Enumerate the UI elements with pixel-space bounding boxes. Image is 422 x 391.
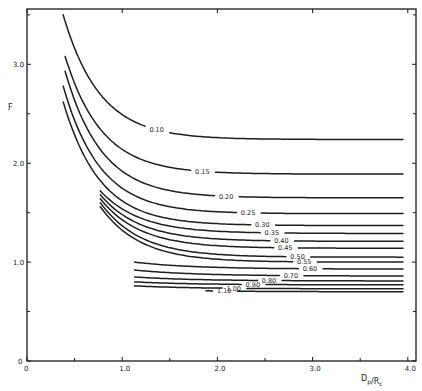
curve-label-0-70: 0.70 bbox=[284, 272, 298, 280]
curve-label-0-20: 0.20 bbox=[219, 193, 233, 201]
curve-0-10-left bbox=[63, 15, 145, 126]
curve-label-0-45: 0.45 bbox=[278, 244, 292, 252]
y-axis-label: F bbox=[8, 103, 13, 112]
plot-frame bbox=[27, 9, 416, 361]
curve-label-1-10: 1.10 bbox=[217, 287, 231, 295]
curve-0-20-right bbox=[239, 197, 403, 198]
curve-0-25-left bbox=[63, 86, 236, 212]
curve-label-0-90: 0.90 bbox=[246, 281, 260, 289]
curve-0-90-left bbox=[135, 282, 242, 285]
y-tick-label: 3.0 bbox=[13, 61, 24, 69]
x-tick-label: 2.0 bbox=[214, 365, 225, 373]
curve-0-15-right bbox=[216, 172, 404, 174]
curve-label-0-60: 0.60 bbox=[303, 265, 317, 273]
curve-label-0-80: 0.80 bbox=[262, 277, 276, 285]
axes: 01.02.03.04.001.02.03.0 bbox=[13, 9, 416, 373]
y-tick-label: 2.0 bbox=[13, 160, 24, 168]
curve-label-0-25: 0.25 bbox=[241, 209, 255, 217]
curve-0-60-left bbox=[135, 262, 299, 269]
curve-0-10-right bbox=[170, 133, 403, 140]
x-tick-label: 1.0 bbox=[119, 365, 130, 373]
curve-0-30-left bbox=[63, 102, 251, 225]
curve-label-0-15: 0.15 bbox=[195, 168, 209, 176]
curve-1-00-left bbox=[135, 286, 223, 288]
curve-labels: 0.100.150.200.250.300.350.400.450.500.55… bbox=[149, 126, 317, 295]
curve-0-80-left bbox=[135, 277, 258, 281]
curve-label-0-10: 0.10 bbox=[149, 126, 163, 134]
x-tick-label: 4.0 bbox=[405, 365, 416, 373]
x-tick-label: 3.0 bbox=[310, 365, 321, 373]
curve-0-70-left bbox=[135, 270, 280, 276]
curve-0-20-left bbox=[65, 71, 214, 196]
x-axis-label: Dp/Rc bbox=[361, 374, 383, 387]
curve-0-25-right bbox=[261, 213, 403, 214]
x-tick-label: 0 bbox=[24, 365, 28, 373]
chart-canvas: 01.02.03.04.001.02.03.0 0.100.150.200.25… bbox=[0, 0, 422, 391]
y-tick-label: 1.0 bbox=[13, 259, 24, 267]
y-tick-label: 0 bbox=[18, 358, 22, 366]
curves bbox=[63, 15, 403, 292]
curve-0-15-left bbox=[65, 56, 191, 170]
curve-1-10-right bbox=[237, 291, 403, 292]
curve-label-0-30: 0.30 bbox=[255, 221, 269, 229]
curve-label-0-35: 0.35 bbox=[265, 229, 279, 237]
